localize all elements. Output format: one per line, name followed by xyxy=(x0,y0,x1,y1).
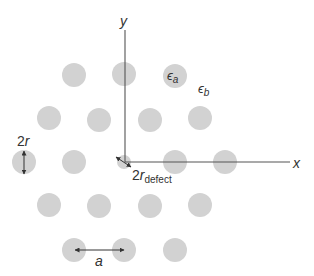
defect-factor: 2 xyxy=(132,167,140,183)
dielectric-rod xyxy=(87,194,111,218)
x-axis-label: x xyxy=(293,156,300,170)
epsilon-b-symbol: ϵ xyxy=(198,81,204,96)
epsilon-b-subscript: b xyxy=(204,87,210,98)
dielectric-rod xyxy=(87,108,111,132)
dielectric-rod xyxy=(138,194,162,218)
epsilon-a-label: ϵa xyxy=(167,69,178,82)
lattice-diagram xyxy=(0,0,314,276)
epsilon-a-symbol: ϵ xyxy=(167,68,173,83)
radius-factor: 2 xyxy=(17,133,25,149)
dielectric-rod xyxy=(163,238,187,262)
dielectric-rod xyxy=(62,63,86,87)
defect-subscript: defect xyxy=(144,174,171,185)
dielectric-rod xyxy=(112,62,136,86)
dielectric-rod xyxy=(37,106,61,130)
dielectric-rod xyxy=(62,150,86,174)
dielectric-rod xyxy=(138,108,162,132)
radius-variable: r xyxy=(25,133,30,149)
dielectric-rod xyxy=(37,193,61,217)
epsilon-a-subscript: a xyxy=(173,74,179,85)
dielectric-rod xyxy=(188,193,212,217)
dielectric-rod xyxy=(188,106,212,130)
lattice-constant-label: a xyxy=(95,254,103,268)
epsilon-b-label: ϵb xyxy=(198,82,209,95)
radius-label: 2r xyxy=(17,134,29,148)
defect-radius-label: 2rdefect xyxy=(132,168,172,182)
y-axis-label: y xyxy=(120,14,127,28)
